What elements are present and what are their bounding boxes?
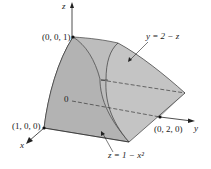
x-axis-label: x [20,141,24,150]
y-axis [160,117,192,121]
point-label-020: (0, 2, 0) [154,125,183,134]
point-100 [42,126,45,129]
z-axis-arrow-icon [70,2,74,8]
origin-label: 0 [64,95,69,104]
point-label-100: (1, 0, 0) [12,122,41,131]
point-label-001: (0, 0, 1) [42,33,71,42]
surface-label-cylinder: z = 1 − x² [108,151,144,160]
point-001 [71,35,74,38]
point-020 [158,115,161,118]
surface-label-plane: y = 2 − z [146,32,179,41]
solid-illustration [0,0,211,169]
y-axis-label: y [194,124,198,133]
z-axis-label: z [62,2,66,11]
diagram-canvas: z y x 0 (0, 0, 1) (1, 0, 0) (0, 2, 0) y … [0,0,211,169]
